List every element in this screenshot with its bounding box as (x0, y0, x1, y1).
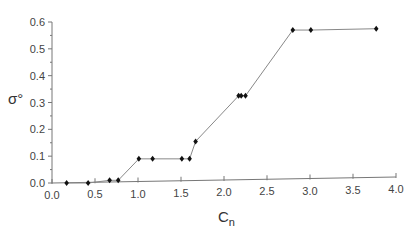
series-line (67, 29, 377, 183)
x-tick-label: 3.5 (345, 184, 360, 196)
data-point-marker (187, 156, 192, 162)
data-point-marker (86, 180, 91, 186)
data-point-marker (309, 27, 314, 33)
axes: 0.00.10.20.30.40.50.60.00.51.01.52.02.53… (30, 16, 404, 201)
x-tick-label: 3.0 (302, 185, 317, 197)
data-point-marker (64, 180, 69, 186)
x-tick-label: 1.5 (173, 187, 188, 199)
y-tick-label: 0.1 (30, 150, 45, 162)
y-tick-label: 0.6 (30, 16, 45, 28)
x-tick-label: 1.0 (130, 188, 145, 200)
x-tick-label: 4.0 (388, 183, 403, 195)
y-tick-label: 0.5 (30, 43, 45, 55)
data-point-marker (150, 156, 155, 162)
y-tick-label: 0.4 (30, 70, 45, 82)
x-tick-label: 2.5 (259, 185, 274, 197)
y-tick-label: 0.3 (30, 97, 45, 109)
y-axis-title: σ° (8, 90, 23, 107)
x-axis-title: Cn (218, 208, 235, 228)
data-point-marker (180, 156, 185, 162)
y-tick-label: 0.0 (30, 177, 45, 189)
data-point-marker (239, 93, 244, 99)
x-tick-label: 0.5 (87, 188, 102, 200)
x-tick-label: 0.0 (44, 189, 59, 201)
x-tick-label: 2.0 (216, 186, 231, 198)
chart: 0.00.10.20.30.40.50.60.00.51.01.52.02.53… (0, 0, 414, 241)
y-tick-label: 0.2 (30, 123, 45, 135)
data-series (64, 26, 378, 186)
data-point-marker (374, 26, 379, 32)
